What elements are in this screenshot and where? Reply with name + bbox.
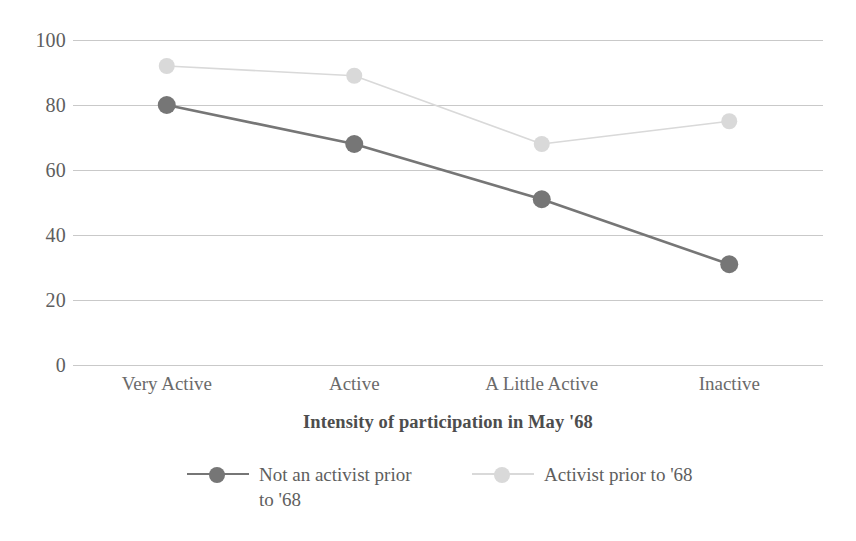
data-point <box>158 96 176 114</box>
y-tick-label-60: 60 <box>8 160 66 180</box>
y-tick-label-80: 80 <box>8 95 66 115</box>
legend-label-not-an-activist: Not an activist prior to '68 <box>259 462 424 512</box>
data-point <box>159 58 175 74</box>
x-axis-title: Intensity of participation in May '68 <box>73 412 823 433</box>
data-point <box>346 68 362 84</box>
gridline-0 <box>73 365 823 366</box>
legend: Not an activist prior to '68 Activist pr… <box>73 462 823 512</box>
x-tick-label-very-active: Very Active <box>73 372 261 400</box>
data-point <box>534 136 550 152</box>
x-tick-label-active: Active <box>261 372 449 400</box>
x-tick-label-inactive: Inactive <box>636 372 824 400</box>
y-tick-label-100: 100 <box>8 30 66 50</box>
series-layer <box>73 40 823 365</box>
legend-item-not-an-activist: Not an activist prior to '68 <box>187 462 424 512</box>
y-tick-label-20: 20 <box>8 290 66 310</box>
legend-marker-icon-dark <box>187 462 249 486</box>
legend-dot-dark <box>209 467 225 483</box>
plot-area <box>73 40 823 365</box>
data-point <box>533 190 551 208</box>
y-tick-label-0: 0 <box>8 355 66 375</box>
line-chart: 100 80 60 40 20 0 Very Active Active A L… <box>0 0 856 541</box>
legend-marker-icon-light <box>472 462 534 486</box>
y-tick-label-40: 40 <box>8 225 66 245</box>
legend-label-activist: Activist prior to '68 <box>544 462 709 487</box>
series-line-0 <box>167 105 730 264</box>
x-tick-label-a-little-active: A Little Active <box>448 372 636 400</box>
data-point <box>345 135 363 153</box>
x-axis: Very Active Active A Little Active Inact… <box>73 372 823 400</box>
legend-item-activist: Activist prior to '68 <box>472 462 709 512</box>
legend-dot-light <box>494 467 510 483</box>
data-point <box>721 113 737 129</box>
series-line-1 <box>167 66 730 144</box>
y-axis: 100 80 60 40 20 0 <box>0 40 66 365</box>
data-point <box>720 255 738 273</box>
